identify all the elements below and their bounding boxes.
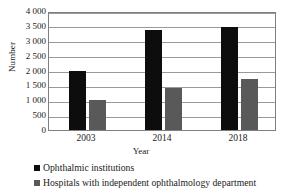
- y-axis-tick-label: 2 500: [2, 52, 46, 61]
- y-axis-tick-label: 500: [2, 111, 46, 120]
- legend-item-label: Ophthalmic institutions: [43, 162, 134, 173]
- bar: [221, 27, 238, 130]
- legend-item[interactable]: Ophthalmic institutions: [34, 160, 282, 175]
- chart-legend: Ophthalmic institutionsHospitals with in…: [34, 160, 282, 190]
- y-axis-tick-label: 3 000: [2, 37, 46, 46]
- bar: [241, 79, 258, 130]
- bar: [145, 30, 162, 130]
- gridline: [49, 13, 275, 14]
- bar: [165, 88, 182, 130]
- x-axis-tick-label: 2014: [134, 133, 190, 143]
- legend-item-label: Hospitals with independent ophthalmology…: [43, 177, 256, 188]
- y-axis-tick-label: 1 000: [2, 96, 46, 105]
- legend-swatch-icon: [34, 180, 40, 186]
- gridline: [49, 42, 275, 43]
- bar: [69, 71, 86, 131]
- bar: [89, 100, 106, 130]
- y-axis-tick-label: 3 500: [2, 22, 46, 31]
- x-axis-title: Year: [0, 146, 282, 156]
- legend-swatch-icon: [34, 165, 40, 171]
- y-axis-tick-label: 4 000: [2, 7, 46, 16]
- x-axis-tick-label: 2018: [210, 133, 266, 143]
- y-axis-tick-label: 1 500: [2, 81, 46, 90]
- legend-item[interactable]: Hospitals with independent ophthalmology…: [34, 175, 282, 190]
- plot-area: [48, 12, 276, 131]
- bar-chart: Number 05001 0001 5002 0002 5003 0003 50…: [0, 0, 282, 193]
- gridline: [49, 57, 275, 58]
- y-axis-tick-label: 0: [2, 126, 46, 135]
- x-axis-tick-label: 2003: [58, 133, 114, 143]
- y-axis-tick-label: 2 000: [2, 67, 46, 76]
- gridline: [49, 27, 275, 28]
